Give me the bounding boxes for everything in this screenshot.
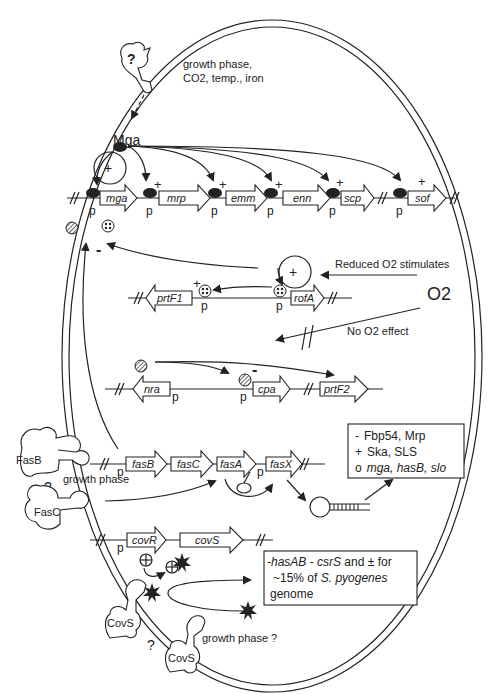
promoter-label: p xyxy=(201,299,208,313)
promoter-label: p xyxy=(146,204,153,218)
cov-growth-phase-label: growth phase ? xyxy=(202,632,277,644)
gene-label-enn: enn xyxy=(293,192,311,204)
promoter-label: p xyxy=(267,204,274,218)
nra-to-prtF2-arrow xyxy=(155,362,333,375)
mga-to-mrp-arrow xyxy=(128,146,146,180)
signal-dashed-arrow xyxy=(132,95,144,118)
fas-targets-box: -Fbp54, Mrp +Ska, SLS omga, hasB, slo xyxy=(348,424,464,478)
gene-label-covR: covR xyxy=(132,534,157,546)
fasX-rna-hairpin xyxy=(310,497,370,517)
signal-label-line1: growth phase, xyxy=(183,58,252,70)
regulatory-network-diagram: ? growth phase, CO2, temp., iron Mga + m… xyxy=(0,0,503,694)
mga-protein xyxy=(113,142,127,152)
covs-signal-loop-arrow xyxy=(168,580,250,611)
cov-question: ? xyxy=(147,637,155,653)
promoter-label: p xyxy=(276,299,283,313)
cov-target-line3: genome xyxy=(270,587,314,601)
no-effect-bar xyxy=(309,325,313,348)
fas-target-negative: -Fbp54, Mrp xyxy=(355,429,426,443)
promoter-label: p xyxy=(89,204,96,218)
unknown-receptor: ? xyxy=(121,42,152,92)
gene-label-nra: nra xyxy=(144,383,160,395)
gene-label-prtF2: prtF2 xyxy=(323,383,350,395)
nra-to-mga-arrow xyxy=(83,244,118,449)
repression-minus: - xyxy=(96,241,101,258)
repression-minus: - xyxy=(252,361,257,378)
signal-label-line2: CO2, temp., iron xyxy=(183,72,264,84)
cov-target-line1: -hasAB - csrS and ± for xyxy=(267,555,392,569)
gene-label-fasA: fasA xyxy=(220,458,242,470)
gene-label-fasX: fasX xyxy=(270,458,293,470)
unknown-signal-question: ? xyxy=(127,51,136,67)
covS-sensor-1: CovS xyxy=(106,580,147,638)
nra-protein xyxy=(135,360,147,372)
reduced-o2-label: Reduced O2 stimulates xyxy=(335,258,450,270)
promoter-label: p xyxy=(396,204,403,218)
promoter-label: p xyxy=(172,390,179,404)
covS-sensor-2: CovS xyxy=(166,616,206,673)
gene-label-mga: mga xyxy=(106,192,127,204)
fasB-label: FasB xyxy=(16,454,42,466)
promoter-label: p xyxy=(329,204,336,218)
cov-targets-box: -hasAB - csrS and ± for ~15% of S. pyoge… xyxy=(264,551,417,605)
rofa-to-prtF1-arrow xyxy=(214,287,272,290)
rofa-operon: prtF1 rofA p p + xyxy=(128,276,352,313)
fasX-to-rna-arrow xyxy=(287,480,305,500)
promoter-label: p xyxy=(211,204,218,218)
gene-label-scp: scp xyxy=(344,192,361,204)
covR-protein xyxy=(140,554,152,566)
promoter-label: p xyxy=(257,465,264,479)
o2-label: O2 xyxy=(427,284,451,304)
no-o2-effect-label: No O2 effect xyxy=(347,325,409,337)
gene-label-cpa: cpa xyxy=(258,383,276,395)
gene-label-fasC: fasC xyxy=(177,458,200,470)
rna-to-targets-arrow xyxy=(365,480,392,500)
no-effect-bar xyxy=(302,327,306,350)
activation-plus: + xyxy=(275,177,283,192)
nra-protein xyxy=(66,222,78,234)
fasC-label: FasC xyxy=(34,506,60,518)
gene-label-covS: covS xyxy=(195,534,220,546)
fas-target-neutral: omga, hasB, slo xyxy=(355,461,446,475)
rofa-auto-plus: + xyxy=(289,264,297,280)
covS-label-1: CovS xyxy=(107,617,134,629)
fasB-sensor: FasB xyxy=(16,428,89,477)
phospho-covR xyxy=(166,561,178,573)
activation-plus: + xyxy=(193,276,201,291)
nra-to-cpa-arrow xyxy=(155,362,228,373)
covR-phosphorylation-arrow xyxy=(144,568,164,576)
activation-plus: + xyxy=(336,175,344,190)
fasC-sensor: FasC xyxy=(25,485,88,529)
promoter-label: p xyxy=(117,541,124,555)
gene-label-rofA: rofA xyxy=(294,292,314,304)
rofa-to-mga-arrow xyxy=(108,244,258,268)
gene-label-emm: emm xyxy=(231,192,255,204)
covS-label-2: CovS xyxy=(168,652,195,664)
gene-label-prtF1: prtF1 xyxy=(156,292,183,304)
activation-plus: + xyxy=(154,177,162,192)
mga-regulon-operon: mga mrp emm enn scp sof p p p p p p + + … xyxy=(67,174,459,218)
cov-target-line2: ~15% of S. pyogenes xyxy=(273,571,387,585)
activation-plus: + xyxy=(418,174,426,189)
promoter-label: p xyxy=(240,390,247,404)
gene-label-sof: sof xyxy=(415,192,431,204)
gene-label-mrp: mrp xyxy=(167,192,186,204)
cov-operon: covR covS p xyxy=(90,527,273,555)
promoter-label: p xyxy=(117,465,124,479)
mga-auto-plus: + xyxy=(104,160,112,176)
fasA-to-fasX-arrow xyxy=(225,479,272,496)
gene-label-fasB: fasB xyxy=(132,458,154,470)
activation-plus: + xyxy=(219,177,227,192)
fasA-protein xyxy=(237,483,251,493)
rofa-protein xyxy=(102,220,114,232)
